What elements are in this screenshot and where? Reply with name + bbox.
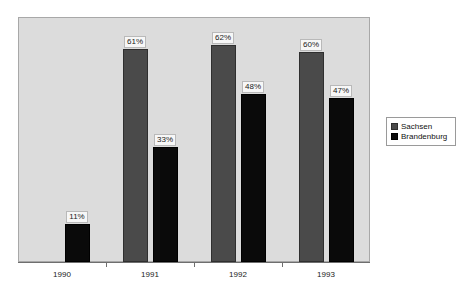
bar-value-label: 11% <box>66 211 88 223</box>
bar-value-label: 61% <box>124 36 146 48</box>
x-axis-tick-label: 1992 <box>194 270 282 279</box>
x-axis-tick <box>194 262 195 267</box>
bar-brandenburg-1992 <box>241 94 266 262</box>
x-axis-tick-label: 1991 <box>106 270 194 279</box>
bar-value-label: 62% <box>212 32 234 44</box>
x-axis-tick-label: 1993 <box>282 270 370 279</box>
x-axis-tick <box>282 262 283 267</box>
brandenburg-swatch-icon <box>391 133 398 140</box>
bar-brandenburg-1993 <box>329 98 354 263</box>
bar-sachsen-1991 <box>123 49 148 263</box>
sachsen-swatch-icon <box>391 123 398 130</box>
bars-layer: 11%61%33%62%48%60%47% <box>18 17 370 262</box>
x-axis-tick-label: 1990 <box>18 270 106 279</box>
bar-sachsen-1992 <box>211 45 236 262</box>
bar-value-label: 33% <box>154 134 176 146</box>
bar-sachsen-1993 <box>299 52 324 262</box>
legend-item-label: Sachsen <box>401 122 432 131</box>
legend-item-brandenburg[interactable]: Brandenburg <box>391 132 451 141</box>
bar-value-label: 48% <box>242 81 264 93</box>
bar-chart: 11%61%33%62%48%60%47% 1990199119921993 S… <box>0 0 461 296</box>
chart-legend: Sachsen Brandenburg <box>386 117 456 146</box>
legend-item-label: Brandenburg <box>401 132 447 141</box>
bar-value-label: 47% <box>330 85 352 97</box>
legend-item-sachsen[interactable]: Sachsen <box>391 122 451 131</box>
bar-brandenburg-1991 <box>153 147 178 263</box>
x-axis-tick <box>106 262 107 267</box>
bar-value-label: 60% <box>300 39 322 51</box>
bar-brandenburg-1990 <box>65 224 90 263</box>
